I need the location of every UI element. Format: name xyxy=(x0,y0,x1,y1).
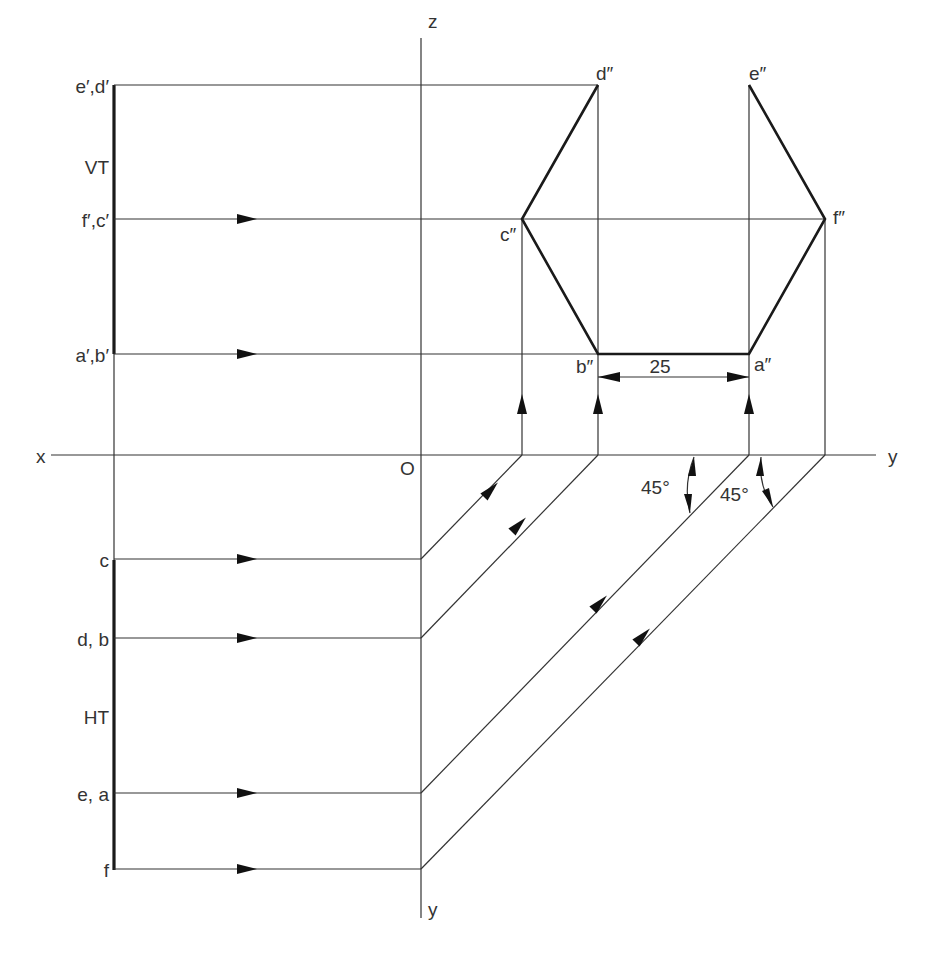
label-c-top: c xyxy=(100,550,110,571)
arrow-right-icon xyxy=(237,864,257,874)
vt-label: VT xyxy=(85,157,110,178)
arrow-up-icon xyxy=(593,394,603,414)
arrow-right-icon xyxy=(237,349,257,359)
arrow-right-icon xyxy=(237,554,257,564)
origin-label: O xyxy=(400,458,415,479)
arrow-down-icon xyxy=(762,488,773,507)
arrow-left-icon xyxy=(598,372,620,382)
arrow-diagonal-icon xyxy=(480,479,501,500)
label-a-b-front: a′,b′ xyxy=(75,345,109,366)
ht-label: HT xyxy=(84,707,110,728)
arrow-right-icon xyxy=(237,214,257,224)
arrow-right-icon xyxy=(237,633,257,643)
arrow-up-icon xyxy=(756,457,764,476)
arrow-up-icon xyxy=(517,394,527,414)
arrow-down-icon xyxy=(684,494,692,513)
label-d-side: d″ xyxy=(596,63,614,84)
arrow-diagonal-icon xyxy=(589,592,610,613)
angle-label-2: 45° xyxy=(720,484,749,505)
label-f-c-front: f′,c′ xyxy=(82,210,110,231)
arrow-diagonal-icon xyxy=(508,514,529,535)
arrow-right-icon xyxy=(237,788,257,798)
label-e-d-front: e′,d′ xyxy=(75,76,109,97)
label-d-b-top: d, b xyxy=(77,629,109,650)
y-axis-label-bottom: y xyxy=(428,899,438,920)
angle-label-1: 45° xyxy=(641,477,670,498)
projection-diagram: x y z y O e′,d′ VT f′,c′ a′,b′ c d, b HT… xyxy=(0,0,935,954)
label-e-side: e″ xyxy=(749,63,767,84)
arrow-up-icon xyxy=(688,457,696,476)
arrow-diagonal-icon xyxy=(632,625,653,646)
label-a-side: a″ xyxy=(754,354,772,375)
x-axis-label: x xyxy=(36,446,46,467)
label-f-top: f xyxy=(104,860,110,881)
arrow-right-icon xyxy=(727,372,749,382)
label-e-a-top: e, a xyxy=(77,784,109,805)
label-c-side: c″ xyxy=(500,224,517,245)
z-axis-label: z xyxy=(428,11,438,32)
arrow-up-icon xyxy=(744,394,754,414)
transfer-line-e-a xyxy=(421,455,749,793)
label-b-side: b″ xyxy=(576,356,594,377)
transfer-line-f xyxy=(421,455,825,869)
transfer-line-d-b xyxy=(421,455,598,638)
label-f-side: f″ xyxy=(833,207,845,228)
dimension-value: 25 xyxy=(649,356,670,377)
transfer-line-c xyxy=(421,455,522,559)
y-axis-label-right: y xyxy=(888,446,898,467)
